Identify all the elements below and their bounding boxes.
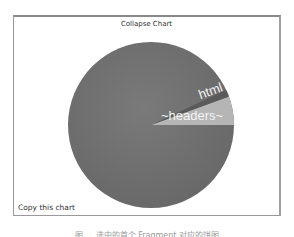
slice-label-headers: ~headers~ [161, 108, 224, 123]
figure-caption: 图 ... 选中的首个 Fragment 对应的饼图 [0, 229, 294, 237]
copy-chart-link[interactable]: Copy this chart [18, 203, 75, 212]
pie-chart: html ~headers~ [14, 17, 282, 218]
chart-panel: Collapse Chart html ~headers~ Copy this … [13, 15, 281, 216]
